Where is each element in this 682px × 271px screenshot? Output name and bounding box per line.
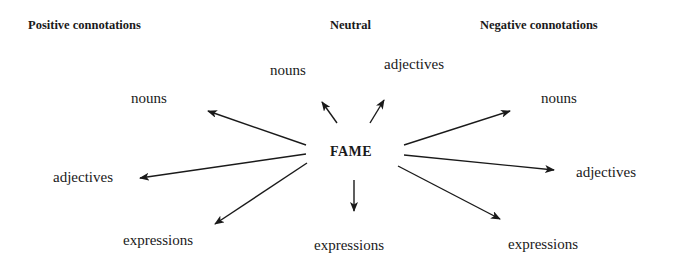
neutral-nouns-label: nouns <box>270 63 306 78</box>
center-term-fame: FAME <box>330 145 372 159</box>
arrow-to-positive-nouns <box>208 111 306 145</box>
arrow-to-positive-expressions <box>215 163 307 224</box>
arrow-to-negative-expressions <box>398 166 500 219</box>
arrow-to-negative-nouns <box>404 111 510 145</box>
arrows-layer <box>0 0 682 271</box>
positive-nouns-label: nouns <box>131 91 167 106</box>
arrow-to-neutral-nouns <box>322 102 337 123</box>
negative-expressions-label: expressions <box>508 237 578 252</box>
negative-adjectives-label: adjectives <box>576 165 636 180</box>
negative-nouns-label: nouns <box>541 91 577 106</box>
arrow-to-negative-adjectives <box>404 155 554 170</box>
arrow-to-positive-adjectives <box>140 154 306 178</box>
positive-expressions-label: expressions <box>123 233 193 248</box>
neutral-adjectives-label: adjectives <box>384 57 444 72</box>
neutral-expressions-label: expressions <box>314 238 384 253</box>
arrow-to-neutral-adjectives <box>370 100 384 123</box>
positive-adjectives-label: adjectives <box>53 170 113 185</box>
